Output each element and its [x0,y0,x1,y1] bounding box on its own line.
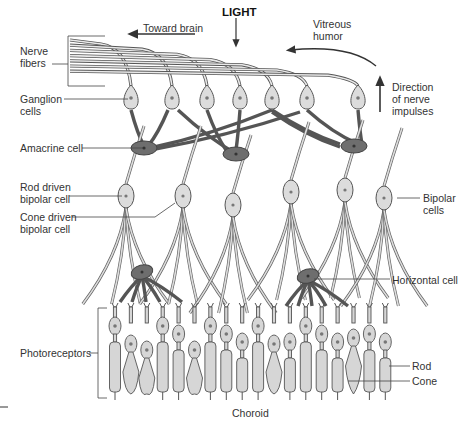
rod-stalk [368,342,371,350]
photoreceptors-bracket [89,308,107,398]
amacrine-process [150,110,272,148]
cone-outer-segment [139,358,155,395]
synaptic-terminal [176,303,182,307]
rod-stalk [304,334,307,342]
bipolar-nucleus [181,194,184,197]
bipolar-axon [219,217,233,313]
bipolar-axon [248,204,291,300]
cone-outer-segment [266,352,282,394]
rod-cell [204,303,216,400]
ganglion-cells-label: Ganglion cells [20,93,62,117]
rod-outer-segment [205,342,216,392]
synaptic-terminal [144,303,150,307]
inner-fiber [241,307,244,323]
receptor-nucleus [352,336,356,340]
cone-outer-segment [123,352,139,394]
ganglion-nucleus [170,96,174,100]
receptor-nucleus [209,324,213,328]
rod-stalk [209,334,212,342]
amacrine-nucleus [234,152,237,155]
bipolar-nucleus [343,188,346,191]
rod-outer-segment [237,358,248,392]
rod-outer-segment [157,342,168,392]
synaptic-terminal [335,303,341,307]
cone-outer-segment [346,346,362,394]
cone-label: Cone [412,375,437,387]
rod-cell [363,303,375,400]
rod-cell [284,303,296,400]
bipolar-axon [277,204,291,300]
cone-driven-bipolar-cell-label: Cone driven bipolar cell [20,211,77,235]
synaptic-terminal [207,303,213,307]
rod-outer-segment [380,358,391,392]
nerve-fibers-label: Nerve fibers [20,45,48,69]
rod-cell [173,303,185,400]
cone-outer-segment [187,358,203,395]
inner-fiber [320,307,323,323]
inner-fiber [384,307,387,323]
ganglion-cell-layer [124,85,365,109]
bipolar-axon [140,208,183,304]
photoreceptor-layer [109,303,391,400]
inner-fiber [193,307,196,323]
receptor-nucleus [240,340,244,344]
ganglion-nucleus [305,96,309,100]
receptor-nucleus [177,332,181,336]
inner-fiber [129,307,132,323]
rod-cell [236,303,248,400]
rod-outer-segment [332,358,343,392]
synaptic-terminal [303,303,309,307]
rod-outer-segment [284,358,295,392]
synaptic-terminal [255,303,261,307]
ganglion-cell [351,85,365,109]
synaptic-terminal [382,303,388,307]
bipolar-cell [337,178,353,202]
bipolar-axon [112,208,126,304]
choroid-label: Choroid [232,407,269,419]
receptor-nucleus [145,348,149,352]
photoreceptors-label: Photoreceptors [20,347,91,359]
rod-stalk [113,334,116,342]
rod-stalk [177,342,180,350]
rod-stalk [384,350,387,358]
receptor-nucleus [193,348,197,352]
inner-fiber [177,307,180,323]
bipolar-nucleus [231,203,234,206]
ganglion-cell [265,85,279,109]
receptor-nucleus [256,324,260,328]
bipolar-axon [384,210,427,306]
rod-cell [379,303,391,400]
ganglion-nucleus [205,96,209,100]
bipolar-cell-layer [118,178,392,217]
rod-outer-segment [110,342,121,392]
neural-connections [83,110,427,313]
rod-label: Rod [412,360,431,372]
ganglion-cell [200,85,214,109]
bipolar-cell [376,186,392,210]
rod-outer-segment [300,342,311,392]
receptor-nucleus [225,332,229,336]
receptor-nucleus [272,342,276,346]
ganglion-cell [233,85,247,109]
ganglion-cell [165,85,179,109]
rod-cell [300,303,312,400]
light-label: LIGHT [222,6,257,18]
bipolar-axon [83,208,126,304]
inner-fiber [288,307,291,323]
horizontal-process [308,280,348,306]
ganglion-nucleus [129,96,133,100]
bipolar-cell [283,180,299,204]
receptor-nucleus [336,340,340,344]
bipolar-cell [175,184,191,208]
rod-cell [332,303,344,400]
bipolar-axon [169,208,183,304]
receptor-nucleus [161,324,165,328]
receptor-nucleus [320,332,324,336]
bipolar-nucleus [382,196,385,199]
receptor-nucleus [113,324,117,328]
vitreous-humor-label: Vitreous humor [313,18,351,42]
bipolar-nucleus [289,190,292,193]
direction-of-nerve-impulses-label: Direction of nerve impulses [392,81,433,117]
inner-fiber [225,307,228,323]
horizontal-process [142,276,182,302]
